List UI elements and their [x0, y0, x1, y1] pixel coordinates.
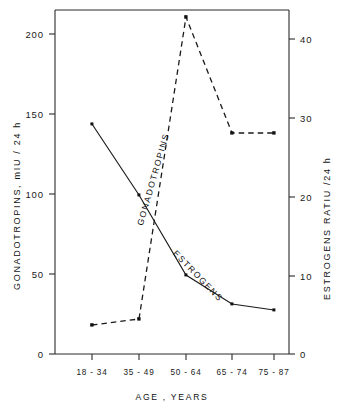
left-ticklabel-0: 0: [38, 349, 44, 360]
left-ticklabel-100: 100: [25, 189, 44, 200]
right-ticklabel-10: 10: [300, 271, 312, 282]
left-axis-title: GONADOTROPINS, mIU / 24 h: [12, 121, 22, 290]
x-ticklabel-3: 65 - 74: [216, 368, 247, 377]
right-ticklabel-20: 20: [300, 192, 312, 203]
series-line-gonadotropins: [92, 17, 274, 325]
right-ticklabel-0: 0: [300, 349, 306, 360]
right-ticklabel-40: 40: [300, 34, 312, 45]
right-axis-title: ESTROGENS RATIU /24 h: [322, 156, 332, 300]
right-ticklabel-30: 30: [300, 113, 312, 124]
x-ticklabel-0: 18 - 34: [76, 368, 107, 377]
x-ticklabel-2: 50 - 64: [170, 368, 201, 377]
series-line-estrogens: [92, 124, 274, 310]
line-chart: 200 150 100 50 0 40 30 20 10 0: [0, 0, 342, 419]
left-axis-ticklabels: 200 150 100 50 0: [25, 29, 44, 360]
left-ticklabel-150: 150: [25, 109, 44, 120]
series-label-estrogens: ESTROGENS: [171, 248, 225, 303]
x-ticklabel-4: 75 - 87: [258, 368, 289, 377]
x-axis-title: AGE , YEARS: [136, 392, 209, 402]
x-axis-ticks: [92, 354, 274, 360]
right-axis-ticklabels: 40 30 20 10 0: [300, 34, 312, 360]
series-markers-estrogens: [90, 122, 275, 311]
x-ticklabel-1: 35 - 49: [123, 368, 154, 377]
x-axis-ticklabels: 18 - 34 35 - 49 50 - 64 65 - 74 75 - 87: [76, 368, 289, 377]
right-axis-ticks: [289, 39, 295, 354]
left-ticklabel-50: 50: [32, 269, 44, 280]
figure-container: 200 150 100 50 0 40 30 20 10 0: [0, 0, 342, 419]
left-axis-ticks: [49, 34, 55, 354]
left-ticklabel-200: 200: [25, 29, 44, 40]
series-label-gonadotropins: GONADOTROPINS: [135, 132, 171, 227]
series-markers-gonadotropins: [90, 15, 275, 326]
